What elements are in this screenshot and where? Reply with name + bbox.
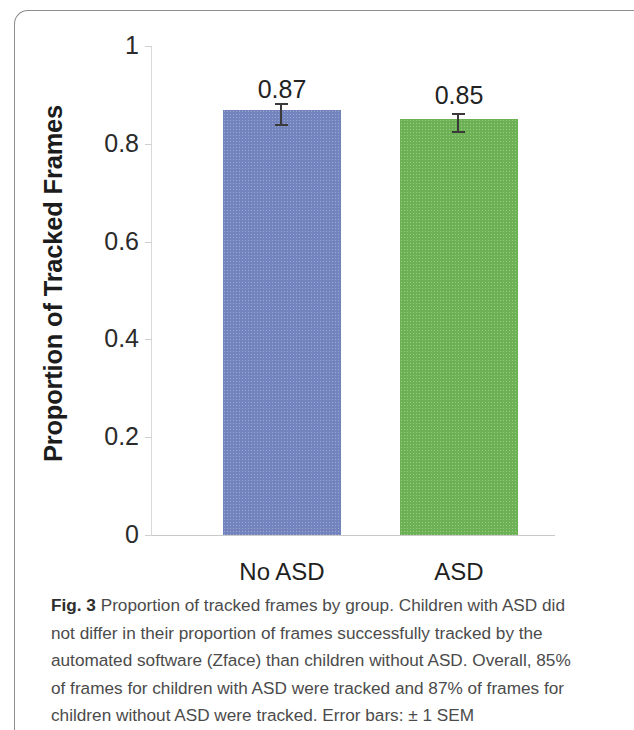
figure-label: Fig. 3 [51, 595, 96, 615]
y-tick-label-1: 1 [29, 33, 139, 58]
figure-caption-body: Proportion of tracked frames by group. C… [51, 595, 571, 725]
y-tick-mark-0-2 [145, 437, 152, 438]
y-tick-label-0-8: 0.8 [29, 131, 139, 156]
bar-value-label-asd: 0.85 [400, 81, 518, 110]
figure-card: Proportion of Tracked Frames 1 0.8 0.6 0… [14, 10, 634, 730]
figure-caption: Fig. 3 Proportion of tracked frames by g… [51, 592, 579, 730]
y-tick-label-0-4: 0.4 [29, 326, 139, 351]
y-tick-mark-0-6 [145, 242, 152, 243]
error-bar-asd-cap-top [452, 113, 465, 115]
y-tick-0: 0 [15, 535, 139, 536]
x-tick-label-asd: ASD [400, 558, 518, 586]
chart-plot-area: Proportion of Tracked Frames 1 0.8 0.6 0… [15, 11, 609, 591]
error-bar-no-asd [280, 103, 282, 125]
error-bar-asd-cap-bottom [452, 131, 465, 133]
y-tick-1: 1 [15, 46, 139, 47]
y-tick-0-8: 0.8 [15, 144, 139, 145]
y-tick-label-0-2: 0.2 [29, 424, 139, 449]
y-tick-mark-0-4 [145, 339, 152, 340]
error-bar-asd [457, 113, 459, 132]
x-tick-label-no-asd: No ASD [223, 558, 341, 586]
y-tick-label-0-6: 0.6 [29, 229, 139, 254]
y-tick-0-4: 0.4 [15, 339, 139, 340]
y-tick-label-0: 0 [29, 522, 139, 547]
y-axis-line [151, 46, 152, 536]
bar-asd-fill [400, 119, 518, 535]
y-tick-0-2: 0.2 [15, 437, 139, 438]
y-tick-mark-0 [145, 535, 152, 536]
x-axis-line [151, 535, 555, 536]
y-tick-0-6: 0.6 [15, 242, 139, 243]
y-tick-mark-1 [145, 46, 152, 47]
bar-no-asd-fill [223, 110, 341, 535]
error-bar-no-asd-cap-bottom [275, 124, 288, 126]
bar-value-label-no-asd: 0.87 [223, 75, 341, 104]
y-tick-mark-0-8 [145, 144, 152, 145]
